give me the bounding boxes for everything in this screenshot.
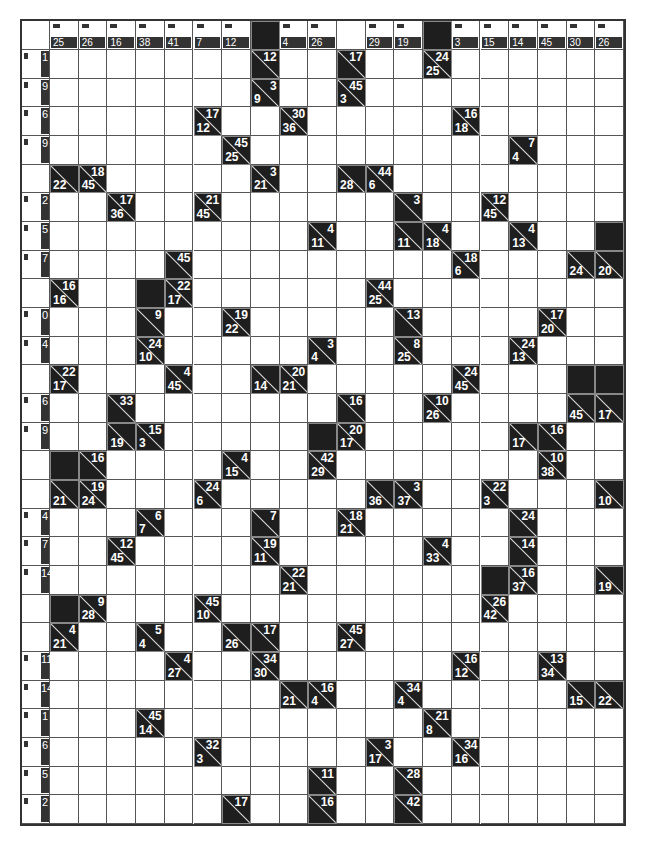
entry-cell[interactable] [595,136,624,165]
entry-cell[interactable] [423,136,452,165]
entry-cell[interactable] [509,394,538,423]
entry-cell[interactable] [107,709,136,738]
entry-cell[interactable] [50,795,79,824]
entry-cell[interactable] [251,308,280,337]
entry-cell[interactable] [79,222,108,251]
entry-cell[interactable] [567,738,596,767]
entry-cell[interactable] [509,795,538,824]
entry-cell[interactable] [394,423,423,452]
entry-cell[interactable] [538,50,567,79]
entry-cell[interactable] [107,509,136,538]
entry-cell[interactable] [423,308,452,337]
entry-cell[interactable] [481,623,510,652]
entry-cell[interactable] [222,738,251,767]
entry-cell[interactable] [394,365,423,394]
entry-cell[interactable] [509,480,538,509]
entry-cell[interactable] [251,337,280,366]
entry-cell[interactable] [165,136,194,165]
entry-cell[interactable] [308,623,337,652]
entry-cell[interactable] [423,480,452,509]
entry-cell[interactable] [538,193,567,222]
entry-cell[interactable] [595,308,624,337]
entry-cell[interactable] [567,222,596,251]
entry-cell[interactable] [567,308,596,337]
entry-cell[interactable] [452,451,481,480]
entry-cell[interactable] [308,709,337,738]
entry-cell[interactable] [79,251,108,280]
entry-cell[interactable] [452,509,481,538]
entry-cell[interactable] [567,279,596,308]
entry-cell[interactable] [136,251,165,280]
entry-cell[interactable] [538,595,567,624]
entry-cell[interactable] [452,681,481,710]
entry-cell[interactable] [308,652,337,681]
entry-cell[interactable] [538,566,567,595]
entry-cell[interactable] [337,365,366,394]
entry-cell[interactable] [308,537,337,566]
entry-cell[interactable] [337,480,366,509]
entry-cell[interactable] [337,251,366,280]
entry-cell[interactable] [452,337,481,366]
entry-cell[interactable] [280,50,309,79]
entry-cell[interactable] [50,537,79,566]
entry-cell[interactable] [136,767,165,796]
entry-cell[interactable] [394,537,423,566]
entry-cell[interactable] [481,738,510,767]
entry-cell[interactable] [79,623,108,652]
entry-cell[interactable] [50,566,79,595]
entry-cell[interactable] [280,738,309,767]
entry-cell[interactable] [251,795,280,824]
entry-cell[interactable] [222,365,251,394]
entry-cell[interactable] [280,767,309,796]
entry-cell[interactable] [79,795,108,824]
entry-cell[interactable] [481,308,510,337]
entry-cell[interactable] [509,738,538,767]
entry-cell[interactable] [595,337,624,366]
entry-cell[interactable] [308,480,337,509]
entry-cell[interactable] [394,709,423,738]
entry-cell[interactable] [423,795,452,824]
entry-cell[interactable] [394,566,423,595]
entry-cell[interactable] [452,423,481,452]
entry-cell[interactable] [394,279,423,308]
entry-cell[interactable] [595,193,624,222]
entry-cell[interactable] [337,709,366,738]
entry-cell[interactable] [366,394,395,423]
entry-cell[interactable] [337,136,366,165]
entry-cell[interactable] [509,79,538,108]
entry-cell[interactable] [394,451,423,480]
entry-cell[interactable] [194,394,223,423]
entry-cell[interactable] [50,107,79,136]
entry-cell[interactable] [394,107,423,136]
entry-cell[interactable] [50,394,79,423]
entry-cell[interactable] [366,681,395,710]
entry-cell[interactable] [194,279,223,308]
entry-cell[interactable] [280,795,309,824]
entry-cell[interactable] [538,537,567,566]
entry-cell[interactable] [452,279,481,308]
entry-cell[interactable] [595,537,624,566]
entry-cell[interactable] [452,709,481,738]
entry-cell[interactable] [107,365,136,394]
entry-cell[interactable] [107,107,136,136]
entry-cell[interactable] [79,738,108,767]
entry-cell[interactable] [394,623,423,652]
entry-cell[interactable] [79,423,108,452]
entry-cell[interactable] [308,165,337,194]
entry-cell[interactable] [595,165,624,194]
entry-cell[interactable] [509,681,538,710]
entry-cell[interactable] [194,251,223,280]
entry-cell[interactable] [394,394,423,423]
entry-cell[interactable] [251,107,280,136]
entry-cell[interactable] [280,308,309,337]
entry-cell[interactable] [194,165,223,194]
entry-cell[interactable] [452,537,481,566]
entry-cell[interactable] [79,767,108,796]
entry-cell[interactable] [79,652,108,681]
entry-cell[interactable] [538,709,567,738]
entry-cell[interactable] [509,365,538,394]
entry-cell[interactable] [366,423,395,452]
entry-cell[interactable] [452,79,481,108]
entry-cell[interactable] [194,50,223,79]
entry-cell[interactable] [136,193,165,222]
